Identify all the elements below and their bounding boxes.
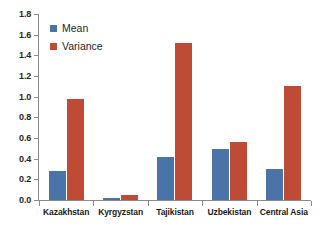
y-axis-tick-mark (34, 76, 38, 77)
bar-mean (157, 157, 174, 200)
x-axis-line (38, 200, 311, 201)
x-axis-category-label: Tajikistan (156, 207, 194, 217)
x-axis-tick-mark (257, 201, 258, 206)
x-axis-category-label: Central Asia (260, 207, 308, 217)
y-axis-tick-mark (34, 35, 38, 36)
x-axis-tick-mark (39, 201, 40, 206)
bar-group (148, 14, 202, 200)
x-axis-tick-mark (202, 201, 203, 206)
y-axis-tick-label: 1.8 (19, 9, 31, 19)
y-axis-tick-mark (34, 117, 38, 118)
legend-item: Variance (50, 40, 103, 52)
legend-label: Variance (62, 40, 103, 52)
y-axis-tick-label: 0.0 (19, 195, 31, 205)
bar-mean (103, 198, 120, 200)
y-axis-tick-label: 0.8 (19, 112, 31, 122)
bar-chart: 0.00.20.40.60.81.01.21.41.61.8 MeanVaria… (0, 0, 320, 237)
y-axis-tick-mark (34, 159, 38, 160)
legend-label: Mean (62, 22, 88, 34)
bar-group (257, 14, 311, 200)
chart-legend: MeanVariance (50, 22, 103, 58)
y-axis-tick-mark (34, 14, 38, 15)
bar-mean (212, 149, 229, 200)
y-axis-tick-mark (34, 179, 38, 180)
y-axis-tick-label: 0.2 (19, 174, 31, 184)
bar-variance (67, 99, 84, 200)
y-axis-tick-label: 1.0 (19, 92, 31, 102)
x-axis-category-label: Kazakhstan (43, 207, 89, 217)
bar-variance (175, 43, 192, 200)
y-axis-tick-label: 1.2 (19, 71, 31, 81)
y-axis-tick-label: 0.4 (19, 154, 31, 164)
y-axis-tick-label: 0.6 (19, 133, 31, 143)
y-axis: 0.00.20.40.60.81.01.21.41.61.8 (0, 0, 34, 237)
bar-mean (266, 169, 283, 200)
y-axis-tick-mark (34, 138, 38, 139)
bar-variance (284, 86, 301, 200)
bar-group (202, 14, 256, 200)
x-axis-category-label: Kyrgyzstan (98, 207, 143, 217)
x-axis-tick-mark (93, 201, 94, 206)
legend-swatch-icon (50, 25, 57, 32)
bar-variance (230, 142, 247, 200)
y-axis-tick-mark (34, 97, 38, 98)
x-axis-tick-mark (311, 201, 312, 206)
bar-variance (121, 195, 138, 200)
y-axis-tick-mark (34, 55, 38, 56)
legend-item: Mean (50, 22, 103, 34)
legend-swatch-icon (50, 43, 57, 50)
y-axis-tick-mark (34, 200, 38, 201)
y-axis-tick-label: 1.6 (19, 30, 31, 40)
x-axis-category-label: Uzbekistan (207, 207, 251, 217)
y-axis-tick-label: 1.4 (19, 50, 31, 60)
x-axis-tick-mark (148, 201, 149, 206)
bar-mean (49, 171, 66, 200)
